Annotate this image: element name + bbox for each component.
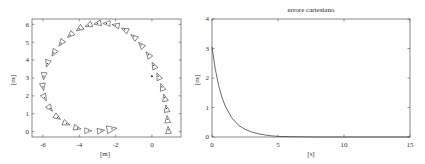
trajectory-plot: 0123456 -6-4-20 [m] [m]: [9, 19, 181, 158]
right-y-tick-label: 1: [206, 104, 210, 112]
left-y-tick-label: 3: [26, 74, 30, 82]
error-plot: errore cartesiano 01234 051015 [s] [m]: [193, 6, 414, 158]
right-y-tick-label: 2: [206, 74, 210, 82]
right-plot-title: errore cartesiano: [288, 6, 335, 14]
left-x-axis-label: [m]: [100, 150, 110, 158]
left-x-tick-label: -2: [113, 141, 119, 149]
left-y-tick-label: 1: [26, 110, 30, 118]
left-y-tick-label: 4: [26, 56, 30, 64]
right-x-tick-label: 0: [210, 141, 214, 149]
right-y-axis-label: [m]: [193, 75, 201, 85]
left-y-tick-label: 2: [26, 92, 30, 100]
left-y-tick-label: 5: [26, 39, 30, 47]
left-y-tick-label: 6: [26, 21, 30, 29]
figure: 0123456 -6-4-20 [m] [m] errore cartesian…: [0, 0, 425, 164]
right-y-tick-label: 4: [206, 15, 210, 23]
left-y-axis-label: [m]: [9, 75, 17, 85]
right-x-tick-label: 5: [276, 141, 280, 149]
left-x-tick-label: -4: [76, 141, 82, 149]
right-y-tick-label: 3: [206, 45, 210, 53]
left-x-tick-label: 0: [150, 141, 154, 149]
right-x-tick-label: 15: [407, 141, 415, 149]
right-x-tick-label: 10: [341, 141, 349, 149]
left-x-tick-label: -6: [40, 141, 46, 149]
right-x-axis-label: [s]: [307, 150, 314, 158]
left-y-tick-label: 0: [26, 128, 30, 136]
right-axes-box: [212, 19, 410, 137]
right-y-tick-label: 0: [206, 133, 210, 141]
